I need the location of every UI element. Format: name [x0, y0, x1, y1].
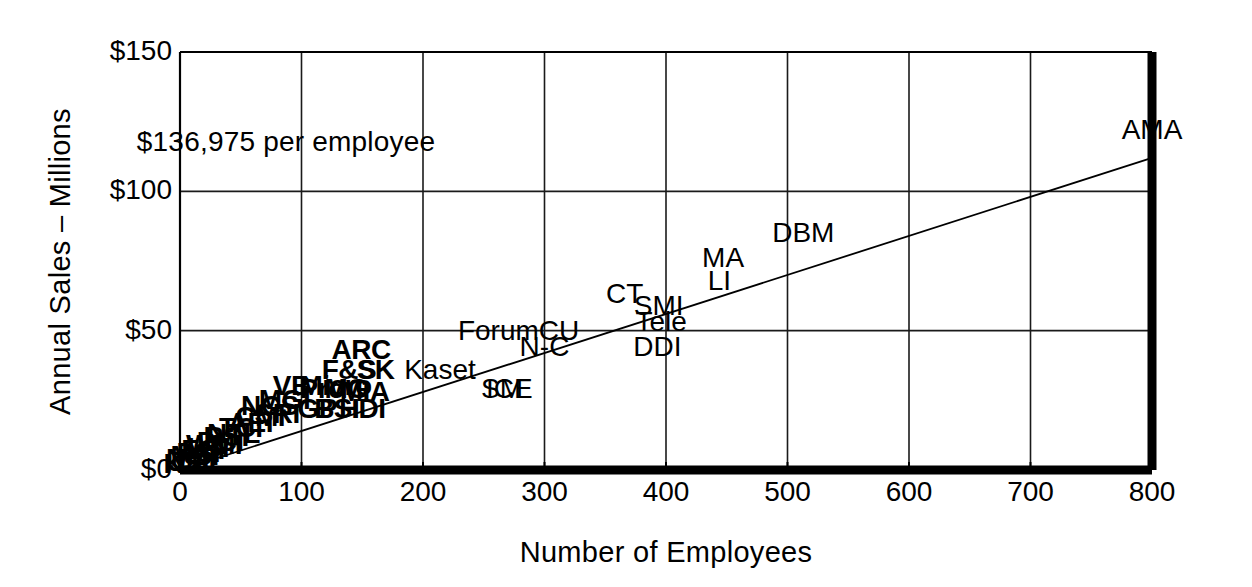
y-tick-label: $50: [125, 316, 172, 344]
x-tick-label: 600: [864, 478, 954, 506]
y-tick-label: $100: [110, 176, 172, 204]
data-point-label: DDI: [633, 333, 681, 361]
data-point-label: AMA: [1122, 116, 1183, 144]
data-point-label: Kaset: [404, 356, 476, 384]
x-tick-label: 500: [743, 478, 833, 506]
x-tick-label: 700: [986, 478, 1076, 506]
x-tick-label: 400: [621, 478, 711, 506]
x-tick-label: 100: [257, 478, 347, 506]
per-employee-annotation: $136,975 per employee: [137, 126, 435, 158]
data-point-label: ICE: [486, 375, 533, 403]
data-point-label: KSI: [163, 450, 208, 478]
x-tick-label: 800: [1107, 478, 1197, 506]
data-point-label: DBM: [772, 219, 834, 247]
data-point-label: Forum: [458, 317, 539, 345]
x-tick-label: 200: [378, 478, 468, 506]
y-tick-label: $150: [110, 37, 172, 65]
x-tick-label: 0: [135, 478, 225, 506]
x-axis-title: Number of Employees: [180, 536, 1152, 569]
data-point-label: LI: [708, 267, 731, 295]
scatter-chart: Annual Sales – Millions Number of Employ…: [0, 0, 1252, 587]
x-tick-label: 300: [500, 478, 590, 506]
y-axis-title: Annual Sales – Millions: [44, 27, 77, 497]
plot-area: $136,975 per employee AMADBMMALICTSMITel…: [180, 52, 1152, 470]
